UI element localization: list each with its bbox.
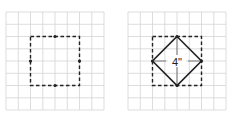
- dimension-label: 4": [172, 56, 182, 68]
- grid-diamond-diagram: 4": [116, 0, 232, 118]
- grid-lines: [6, 12, 104, 110]
- grid-square-diagram: [0, 0, 116, 118]
- right-figure: 4": [116, 0, 232, 118]
- left-figure: [0, 0, 116, 118]
